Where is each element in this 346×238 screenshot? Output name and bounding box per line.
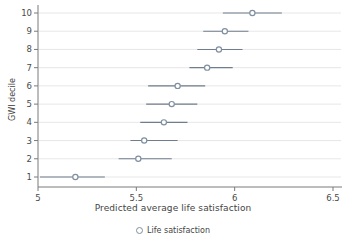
y-tick-label: 8: [2, 44, 32, 54]
y-tick-label: 1: [2, 172, 32, 182]
y-tick-label: 10: [2, 8, 32, 18]
y-tick-label: 7: [2, 63, 32, 73]
y-tick-label: 5: [2, 99, 32, 109]
legend-label-life-satisfaction: Life satisfaction: [147, 226, 210, 235]
x-tick-label: 6.5: [326, 193, 340, 203]
data-series-life-satisfaction: [40, 10, 282, 179]
y-tick-label: 2: [2, 154, 32, 164]
x-tick-label: 5.5: [130, 193, 144, 203]
chart-container: 1234567891055.566.5 GWI decile Predicted…: [0, 0, 346, 238]
x-axis-title: Predicted average life satisfaction: [0, 203, 346, 213]
y-tick-label: 3: [2, 136, 32, 146]
y-tick-label: 6: [2, 81, 32, 91]
y-axis-title: GWI decile: [8, 50, 17, 150]
gridlines: [39, 13, 341, 177]
y-tick-label: 4: [2, 117, 32, 127]
legend-marker-circle-open-icon: [136, 227, 143, 234]
y-tick-label: 9: [2, 26, 32, 36]
x-tick-label: 5: [35, 193, 40, 203]
x-tick-label: 6: [232, 193, 237, 203]
tick-marks: [34, 13, 333, 191]
chart-legend: Life satisfaction: [0, 226, 346, 235]
axis-lines: [38, 5, 342, 187]
